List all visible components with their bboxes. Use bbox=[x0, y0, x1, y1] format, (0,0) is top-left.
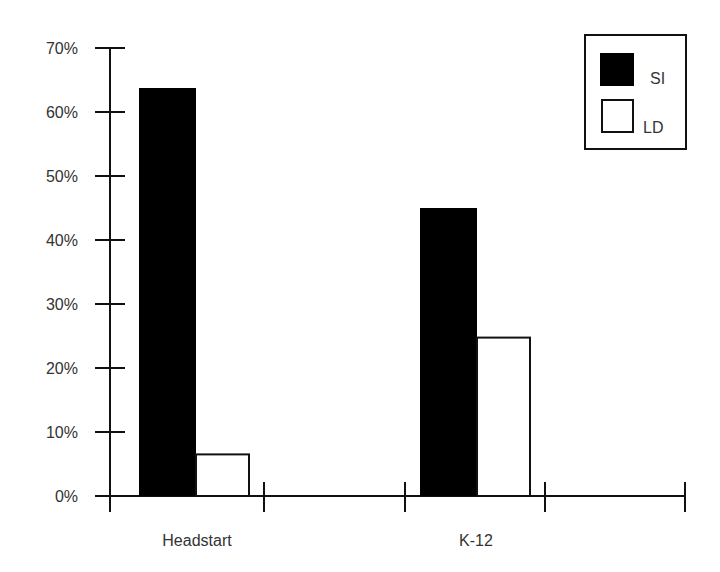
bars bbox=[139, 88, 530, 496]
y-tick-label: 30% bbox=[46, 296, 78, 313]
y-tick-label: 20% bbox=[46, 360, 78, 377]
x-tick-label: Headstart bbox=[162, 532, 232, 549]
bar-si-headstart bbox=[139, 88, 196, 496]
y-axis: 0%10%20%30%40%50%60%70% bbox=[46, 40, 125, 512]
y-tick-label: 50% bbox=[46, 168, 78, 185]
y-tick-label: 70% bbox=[46, 40, 78, 57]
y-tick-label: 10% bbox=[46, 424, 78, 441]
bar-chart: 0%10%20%30%40%50%60%70% HeadstartK-12 SI… bbox=[0, 0, 720, 572]
legend-swatch-ld bbox=[602, 100, 633, 132]
x-tick-label: K-12 bbox=[459, 532, 493, 549]
bar-ld-headstart bbox=[196, 454, 249, 496]
y-tick-label: 60% bbox=[46, 104, 78, 121]
y-tick-label: 0% bbox=[55, 488, 78, 505]
legend-label-si: SI bbox=[650, 70, 665, 87]
legend-swatch-si bbox=[600, 53, 634, 86]
bar-ld-k-12 bbox=[477, 338, 530, 496]
y-tick-label: 40% bbox=[46, 232, 78, 249]
legend-box bbox=[585, 35, 686, 149]
bar-si-k-12 bbox=[420, 208, 477, 496]
legend-label-ld: LD bbox=[643, 119, 663, 136]
legend: SI LD bbox=[585, 35, 686, 149]
